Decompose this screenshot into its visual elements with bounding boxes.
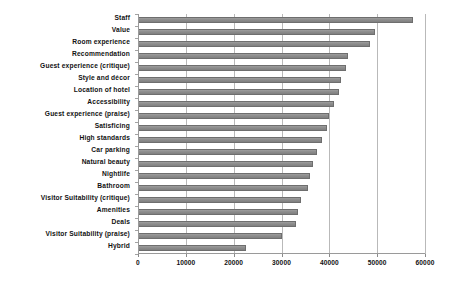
bar bbox=[138, 113, 329, 119]
category-label: Visitor Suitability (critique) bbox=[0, 194, 130, 202]
bar bbox=[138, 233, 282, 239]
category-axis-tick bbox=[135, 218, 138, 219]
category-label: Guest experience (praise) bbox=[0, 110, 130, 118]
bar bbox=[138, 53, 348, 59]
category-axis-tick bbox=[135, 26, 138, 27]
category-label: Natural beauty bbox=[0, 158, 130, 166]
category-axis-tick bbox=[135, 74, 138, 75]
category-axis-tick bbox=[135, 62, 138, 63]
category-axis-tick bbox=[135, 158, 138, 159]
bar bbox=[138, 209, 298, 215]
category-axis-tick bbox=[135, 122, 138, 123]
category-label: Accessibility bbox=[0, 98, 130, 106]
gridline bbox=[234, 14, 235, 254]
category-label: Value bbox=[0, 26, 130, 34]
bar bbox=[138, 29, 375, 35]
category-label: Staff bbox=[0, 14, 130, 22]
value-axis-tick bbox=[329, 254, 330, 257]
bar bbox=[138, 77, 341, 83]
bar bbox=[138, 101, 334, 107]
value-axis-tick bbox=[234, 254, 235, 257]
plot-area bbox=[138, 14, 425, 254]
value-axis-tick-label: 20000 bbox=[211, 259, 257, 266]
bar bbox=[138, 221, 296, 227]
category-label: Recommendation bbox=[0, 50, 130, 58]
bar bbox=[138, 137, 322, 143]
category-label: Room experience bbox=[0, 38, 130, 46]
category-label: Amenities bbox=[0, 206, 130, 214]
bar bbox=[138, 125, 327, 131]
bar bbox=[138, 197, 301, 203]
category-axis-tick bbox=[135, 134, 138, 135]
bar bbox=[138, 161, 313, 167]
value-axis-tick-label: 40000 bbox=[306, 259, 352, 266]
category-label: High standards bbox=[0, 134, 130, 142]
category-axis-tick bbox=[135, 14, 138, 15]
bar bbox=[138, 41, 370, 47]
category-label: Hybrid bbox=[0, 242, 130, 250]
value-axis-line bbox=[138, 14, 139, 254]
value-axis-tick-label: 60000 bbox=[402, 259, 448, 266]
bar bbox=[138, 245, 246, 251]
gridline bbox=[425, 14, 426, 254]
category-label: Style and décor bbox=[0, 74, 130, 82]
gridline bbox=[186, 14, 187, 254]
gridline bbox=[377, 14, 378, 254]
value-axis-tick bbox=[425, 254, 426, 257]
category-axis-tick bbox=[135, 86, 138, 87]
category-axis-tick bbox=[135, 50, 138, 51]
category-axis-tick bbox=[135, 230, 138, 231]
category-label: Location of hotel bbox=[0, 86, 130, 94]
category-label: Nightlife bbox=[0, 170, 130, 178]
category-label: Car parking bbox=[0, 146, 130, 154]
category-axis-tick bbox=[135, 182, 138, 183]
bar bbox=[138, 173, 310, 179]
category-label: Guest experience (critique) bbox=[0, 62, 130, 70]
category-label: Deals bbox=[0, 218, 130, 226]
category-axis: StaffValueRoom experienceRecommendationG… bbox=[0, 12, 134, 254]
category-axis-tick bbox=[135, 206, 138, 207]
value-axis-tick bbox=[138, 254, 139, 257]
category-axis-tick bbox=[135, 98, 138, 99]
bar bbox=[138, 65, 346, 71]
value-axis-tick bbox=[282, 254, 283, 257]
value-axis-tick-label: 0 bbox=[115, 259, 161, 266]
gridline bbox=[329, 14, 330, 254]
value-axis-tick bbox=[377, 254, 378, 257]
value-axis-tick-label: 50000 bbox=[354, 259, 400, 266]
bar bbox=[138, 185, 308, 191]
bar-chart: StaffValueRoom experienceRecommendationG… bbox=[0, 0, 452, 284]
category-axis-tick bbox=[135, 146, 138, 147]
gridline bbox=[282, 14, 283, 254]
bar bbox=[138, 149, 317, 155]
category-label: Satisficing bbox=[0, 122, 130, 130]
category-axis-tick bbox=[135, 110, 138, 111]
value-axis-tick-label: 30000 bbox=[259, 259, 305, 266]
category-label: Bathroom bbox=[0, 182, 130, 190]
bar bbox=[138, 17, 413, 23]
category-axis-tick bbox=[135, 38, 138, 39]
category-axis-tick bbox=[135, 254, 138, 255]
category-label: Visitor Suitability (praise) bbox=[0, 230, 130, 238]
value-axis-tick-label: 10000 bbox=[163, 259, 209, 266]
category-axis-tick bbox=[135, 170, 138, 171]
bar bbox=[138, 89, 339, 95]
category-axis-tick bbox=[135, 242, 138, 243]
category-axis-tick bbox=[135, 194, 138, 195]
value-axis-tick bbox=[186, 254, 187, 257]
